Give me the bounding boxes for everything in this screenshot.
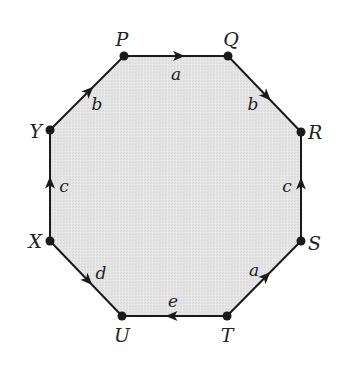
vertex-label-p: P: [115, 28, 130, 50]
edge-label: c: [282, 176, 292, 196]
diagram-canvas: PQRSTUXY abcaedcb: [0, 0, 349, 365]
vertex-label-u: U: [114, 324, 131, 346]
vertex-dot-s: [297, 237, 306, 246]
vertex-dot-u: [118, 312, 127, 321]
vertex-dot-q: [224, 52, 233, 61]
edge-label: a: [171, 64, 181, 84]
vertex-label-x: X: [26, 230, 43, 252]
edge-label: b: [248, 94, 259, 114]
vertex-label-y: Y: [29, 120, 44, 142]
vertex-dot-t: [223, 312, 232, 321]
octagon-diagram: PQRSTUXY abcaedcb: [0, 0, 349, 365]
vertex-dot-y: [46, 126, 55, 135]
vertex-label-t: T: [221, 324, 235, 346]
edge-label: c: [59, 176, 69, 196]
vertex-dot-r: [297, 128, 306, 137]
edge-label: e: [168, 291, 178, 311]
edge-label: a: [249, 260, 259, 280]
vertex-label-q: Q: [223, 28, 239, 50]
vertex-label-s: S: [308, 232, 321, 254]
vertex-dot-x: [46, 237, 55, 246]
vertex-label-r: R: [307, 121, 322, 143]
edge-label: b: [92, 94, 103, 114]
vertex-dot-p: [120, 52, 129, 61]
edge-label: d: [96, 263, 107, 283]
